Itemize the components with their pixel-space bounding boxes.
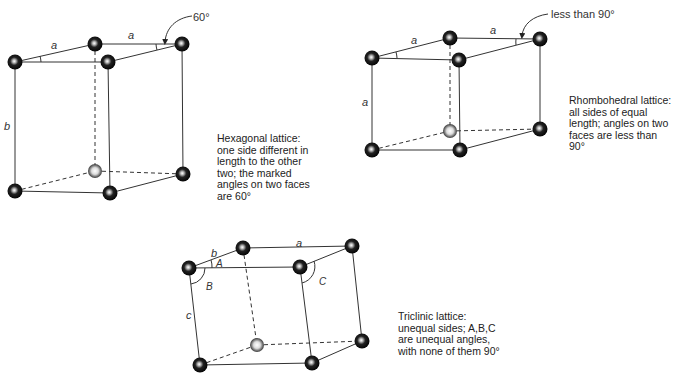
rhombohedral-edge-a-vertical: a [362, 96, 368, 108]
triclinic-angle-a: A [215, 258, 223, 269]
hexagonal-atoms [8, 37, 191, 201]
rhombohedral-lattice-diagram [372, 14, 548, 150]
triclinic-atoms [182, 239, 370, 373]
triclinic-caption: Triclinic lattice: unequal sides; A,B,C … [398, 311, 500, 357]
triclinic-edge-a: a [296, 237, 302, 249]
hexagonal-angle-callout: 60° [193, 11, 210, 23]
rhombohedral-edge-a-left: a [411, 34, 417, 46]
hexagonal-edge-a-back: a [128, 29, 134, 41]
rhombohedral-atoms [365, 31, 548, 158]
rhombohedral-caption: Rhombohedral lattice: all sides of equal… [569, 95, 671, 153]
hexagonal-edge-a-left: a [51, 39, 57, 51]
triclinic-edge-c: c [186, 309, 192, 321]
hexagonal-edge-b: b [4, 120, 10, 132]
hexagonal-lattice-diagram [15, 16, 192, 193]
hexagonal-caption: Hexagonal lattice: one side different in… [217, 133, 310, 202]
rhombohedral-edge-a-back: a [490, 24, 496, 36]
triclinic-lattice-diagram [189, 246, 362, 365]
triclinic-angle-b: B [206, 281, 213, 292]
triclinic-angle-c: C [319, 276, 327, 287]
rhombohedral-angle-callout: less than 90° [551, 8, 615, 20]
